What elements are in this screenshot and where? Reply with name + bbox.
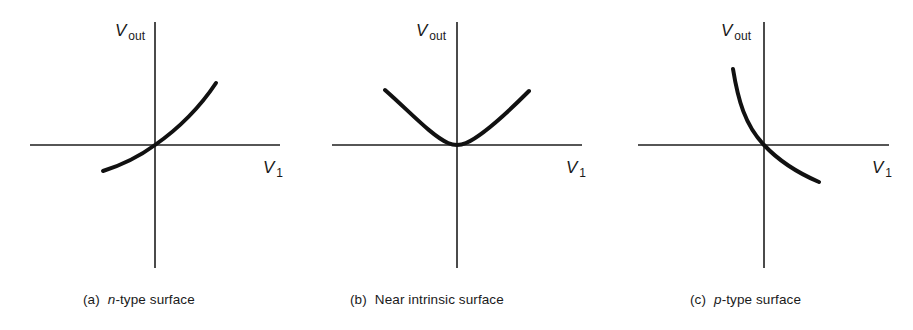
panel-c-plot (638, 22, 889, 268)
panel-c-x-axis-label: V1 (872, 159, 892, 176)
x-axis-symbol: V (872, 158, 883, 177)
caption-tag: (a) (83, 292, 100, 307)
caption-text: Near intrinsic surface (375, 292, 504, 307)
figure-canvas (0, 0, 913, 330)
caption-text: -type surface (722, 292, 801, 307)
panel-c-y-axis-label: Vout (721, 22, 751, 39)
y-axis-symbol: V (416, 21, 427, 40)
panel-b-y-axis-label: Vout (416, 22, 446, 39)
x-axis-symbol: V (263, 158, 274, 177)
y-axis-subscript: out (734, 29, 751, 43)
panel-b-x-axis-label: V1 (566, 159, 586, 176)
panel-a-y-axis-label: Vout (115, 22, 145, 39)
panel-b-caption: (b)Near intrinsic surface (350, 292, 504, 307)
panel-b-plot (332, 22, 582, 268)
x-axis-subscript: 1 (276, 166, 283, 180)
panel-a-plot (30, 22, 280, 268)
caption-tag: (c) (690, 292, 706, 307)
y-axis-symbol: V (115, 21, 126, 40)
caption-tag: (b) (350, 292, 367, 307)
y-axis-symbol: V (721, 21, 732, 40)
y-axis-subscript: out (128, 29, 145, 43)
panel-a-curve (103, 83, 216, 171)
panel-c-caption: (c)p-type surface (690, 292, 801, 307)
panel-a-caption: (a)n-type surface (83, 292, 195, 307)
y-axis-subscript: out (429, 29, 446, 43)
panel-c-curve (733, 69, 819, 182)
x-axis-symbol: V (566, 158, 577, 177)
x-axis-subscript: 1 (579, 166, 586, 180)
caption-text: -type surface (115, 292, 194, 307)
caption-italic: p (714, 292, 722, 307)
x-axis-subscript: 1 (885, 166, 892, 180)
panel-a-x-axis-label: V1 (263, 159, 283, 176)
